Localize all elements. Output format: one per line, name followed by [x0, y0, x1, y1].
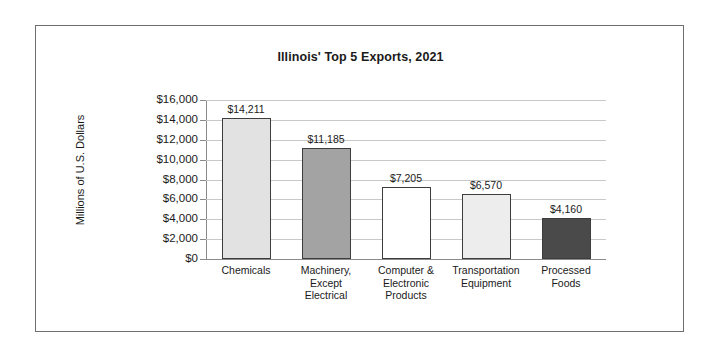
bar-value-label: $7,205	[366, 173, 446, 184]
x-axis-category-label: Chemicals	[201, 264, 291, 277]
plot-area: $14,211$11,185$7,205$6,570$4,160	[206, 100, 606, 259]
y-axis-tick-label: $8,000	[98, 174, 198, 186]
y-axis-tick-mark	[200, 140, 206, 141]
y-axis-tick-mark	[200, 239, 206, 240]
y-axis-tick-label: $12,000	[98, 134, 198, 146]
y-axis-title: Millions of U.S. Dollars	[74, 80, 86, 260]
y-axis-tick-label: $4,000	[98, 213, 198, 225]
bar-value-label: $6,570	[446, 180, 526, 191]
x-axis-category-label: Machinery,ExceptElectrical	[281, 264, 371, 302]
y-axis-tick-mark	[200, 259, 206, 260]
x-axis-category-label: Computer &ElectronicProducts	[361, 264, 451, 302]
bar[interactable]	[222, 118, 271, 259]
y-axis-tick-label: $2,000	[98, 233, 198, 245]
y-axis-tick-mark	[200, 100, 206, 101]
x-axis-category-label: TransportationEquipment	[441, 264, 531, 289]
y-axis-tick-labels: $16,000$14,000$12,000$10,000$8,000$6,000…	[88, 26, 198, 333]
y-axis-tick-mark	[200, 120, 206, 121]
gridline	[206, 259, 606, 260]
gridline	[206, 100, 606, 101]
chart-page: Illinois' Top 5 Exports, 2021 Millions o…	[0, 0, 719, 354]
figure-frame: Illinois' Top 5 Exports, 2021 Millions o…	[35, 25, 684, 332]
bar[interactable]	[382, 187, 431, 259]
bar-value-label: $11,185	[286, 134, 366, 145]
y-axis-tick-label: $6,000	[98, 193, 198, 205]
y-axis-tick-mark	[200, 219, 206, 220]
y-axis-tick-label: $10,000	[98, 154, 198, 166]
x-axis-category-label: ProcessedFoods	[521, 264, 611, 289]
y-axis-tick-mark	[200, 160, 206, 161]
y-axis-tick-mark	[200, 180, 206, 181]
bar[interactable]	[542, 218, 591, 259]
bar[interactable]	[302, 148, 351, 259]
bar[interactable]	[462, 194, 511, 259]
bar-value-label: $4,160	[526, 204, 606, 215]
y-axis-tick-label: $16,000	[98, 94, 198, 106]
y-axis-tick-mark	[200, 199, 206, 200]
y-axis-tick-label: $14,000	[98, 114, 198, 126]
y-axis-tick-label: $0	[98, 253, 198, 265]
bar-value-label: $14,211	[206, 104, 286, 115]
